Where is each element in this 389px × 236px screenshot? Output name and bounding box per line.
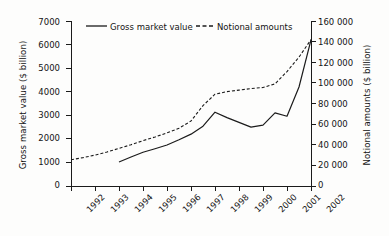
scan-bleed-artifact xyxy=(33,224,363,233)
y-right-ticks xyxy=(311,21,316,186)
series-line-notional-amounts xyxy=(71,40,311,160)
chart-figure: Gross market value ($ billion) Notional … xyxy=(0,0,389,236)
plot-area xyxy=(0,0,389,236)
x-ticks xyxy=(71,186,311,191)
y-left-ticks xyxy=(66,21,71,186)
series-line-gross-market-value xyxy=(119,40,311,162)
